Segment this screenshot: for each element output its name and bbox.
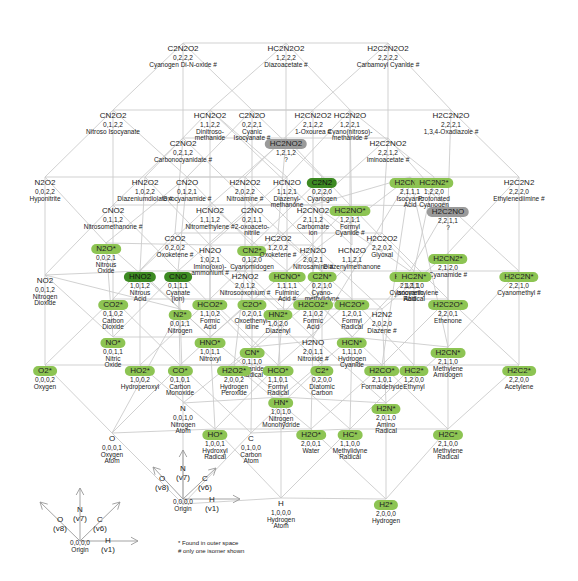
key-arrow-h-head (131, 541, 138, 545)
node-name: Carbonocyanidate # (154, 157, 212, 164)
node-name: ion (292, 230, 334, 237)
node-name: Radical (333, 454, 368, 461)
node-formula: HCO* (263, 366, 294, 376)
node-name: Atom (240, 458, 261, 465)
node-formula: C2O2 (160, 234, 191, 244)
node-h2cn: H2CN*2,1,1,0MethyleneAmidogen (431, 342, 466, 379)
node-name: Acid (293, 324, 333, 331)
node-formula: HC2O2 (260, 234, 297, 244)
node-name: Diazene # (367, 328, 397, 335)
node-name: Origin (173, 506, 193, 513)
node-formula: HCNO2 (191, 206, 229, 216)
lattice-edge (112, 429, 215, 433)
node-formula: H2N2 (367, 310, 397, 320)
node-formula: H2O2* (217, 366, 251, 376)
node-name: Atom (267, 523, 295, 530)
node-formula: N2O2 (30, 178, 61, 188)
node-formula: CO* (167, 366, 192, 376)
node-formula: HC* (338, 430, 363, 440)
node-name: Hyponitrite (29, 196, 60, 203)
node-formula: CO2* (98, 300, 128, 310)
node-formula: C2N* (307, 272, 336, 282)
node-h2no: H2NO2,0,1,1Nitroxide # (297, 332, 329, 362)
node-formula: HC2N2O2 (263, 44, 310, 54)
node-formula: HN* (269, 398, 294, 408)
node-name: Acid (124, 296, 156, 303)
node-hcno2: HCNO21,1,1,2Nitromethylene # (185, 200, 234, 230)
node-formula: C2* (310, 366, 333, 376)
node-name: Water (296, 448, 326, 455)
node-formula: H2NO2 (227, 272, 264, 282)
node-formula: HC2N2O (329, 111, 371, 121)
node-formula: C (243, 434, 259, 444)
node-h2c2n: H2C2N*2,2,1,0Cyanomethyl # (497, 266, 540, 296)
node-h2c2o2: H2C2O22,2,0,2Glyoxal (361, 228, 402, 258)
node-name: Oxoketene # (157, 252, 194, 259)
node-hc2o: HC2O*1,2,0,1FormylRadical (334, 294, 369, 331)
node-o: O0,0,0,1OxygenAtom (101, 428, 123, 465)
node-formula: H2C2O2 (361, 234, 402, 244)
node-name: Atom (171, 428, 196, 435)
axis-arrow-n-head (179, 450, 183, 457)
node-h2n: H2N*2,0,1,0AminoRadical (371, 398, 400, 435)
node-formula: HCN2O (268, 178, 306, 188)
node-name: Cyanomethyl # (497, 290, 540, 297)
node-name: Glyoxal (361, 252, 402, 259)
node-formula: HC2NO2 (265, 139, 307, 149)
node-formula: H2C2NO (427, 207, 469, 217)
legend-outer-space: * Found in outer space (178, 539, 244, 547)
node-c2: C2*0,2,0,0DiatomicCarbon (309, 360, 334, 397)
node-c2o2: C2O20,2,0,2Oxoketene # (157, 228, 194, 258)
node-hno2: HNO21,0,1,2NitrousAcid (124, 266, 156, 303)
node-formula: H2C2* (502, 366, 536, 376)
node-h2co2: H2CO2*2,1,0,2FormicAcid (293, 294, 333, 331)
node-formula: H2C2NO2 (365, 139, 412, 149)
node-formula: HNO* (195, 338, 226, 348)
node-formula: H2N* (371, 404, 400, 414)
key-arrow-h-head (131, 537, 138, 541)
node-h2c2no: H2C2NO2,2,1,1? (427, 201, 469, 231)
node-formula: H2* (374, 500, 397, 510)
node-name: Formaldehyde (361, 384, 403, 391)
node-hc2: HC2*1,2,0,0Ethynyl (399, 360, 428, 390)
node-name: Ethenone (428, 318, 468, 325)
key-axis-label-h: H(v1) (101, 537, 115, 555)
node-cno2: CNO20,1,1,2Nitrosomethanone # (84, 200, 143, 230)
node-c2n2: C2N20,2,2,0Cyanogen (307, 172, 337, 202)
node-formula: H2C2N2 (499, 178, 540, 188)
key-axis-label-c: C(v6) (93, 516, 107, 534)
node-formula: C2NO (236, 206, 268, 216)
node-ho: HO*1,0,0,1HydroxylRadical (202, 424, 227, 461)
node-formula: HN2* (263, 310, 292, 320)
node-origin: 0,0,0,0Origin (173, 499, 193, 513)
node-formula: C2NO2 (165, 139, 202, 149)
node-h2c2n2: H2C2N22,2,2,0Ethylenediimine # (493, 172, 544, 202)
node-name: Carbon (309, 390, 334, 397)
node-formula: HC2O* (334, 300, 369, 310)
node-name: Hydroperoxyl (121, 384, 159, 391)
node-h2c2n2o: H2C2N2O2,2,2,11,3,4-Oxadiazole # (424, 105, 479, 135)
node-formula: C2N2 (307, 178, 337, 188)
axis-label-n: N(v7) (176, 465, 190, 483)
node-name: Dioxide (32, 300, 58, 307)
node-h2: H2*2,0,0,0Hydrogen (372, 494, 400, 524)
node-name: Atom (101, 458, 123, 465)
node-formula: H2C2N* (499, 272, 538, 282)
node-formula: CN* (240, 348, 265, 358)
node-cno: CNO0,1,1,1Cyanate(ion) (164, 266, 192, 303)
node-name: Nitrosomethanone # (84, 224, 143, 231)
node-hno: HNO*1,0,1,1Nitroxyl (195, 332, 226, 362)
axis-label-o: O(v8) (155, 475, 169, 493)
node-formula: HN2O2 (127, 178, 164, 188)
node-name: Iminoacetate # (365, 157, 412, 164)
node-h2n2: H2N22,0,2,0Diazene # (367, 304, 397, 334)
node-hn2: HN2*1,0,2,0Diazenyl (263, 304, 292, 334)
legend-one-isomer: # only one isomer shown (178, 547, 244, 555)
node-formula: CNO (164, 272, 192, 282)
node-name: Oxide (91, 268, 121, 275)
node-formula: O (104, 434, 120, 444)
node-formula: HCN2O2 (189, 111, 231, 121)
axis-label-h: H(v1) (205, 496, 219, 514)
node-formula: H2CNO2 (292, 206, 334, 216)
node-formula: N2O* (91, 244, 121, 254)
